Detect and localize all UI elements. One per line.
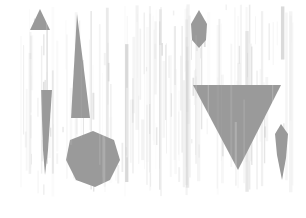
streak-overlay bbox=[24, 32, 26, 65]
streak-grain bbox=[255, 16, 256, 44]
streak-overlay bbox=[230, 44, 232, 167]
streak-overlay bbox=[46, 19, 47, 72]
streak-line bbox=[65, 20, 66, 69]
streak-grain bbox=[125, 147, 127, 155]
streak-overlay bbox=[131, 38, 132, 196]
streak-grain bbox=[132, 99, 134, 122]
streak-line bbox=[181, 56, 182, 111]
streak-overlay bbox=[145, 87, 146, 148]
streak-overlay bbox=[154, 21, 156, 94]
streak-grain bbox=[171, 93, 172, 116]
streak-line bbox=[161, 7, 162, 196]
streak-grain bbox=[200, 48, 201, 58]
streak-overlay bbox=[41, 46, 42, 174]
streak-grain bbox=[161, 43, 163, 56]
streak-overlay bbox=[30, 115, 32, 138]
streak-grain bbox=[146, 67, 147, 71]
streak-overlay bbox=[243, 100, 245, 184]
streak-overlay bbox=[70, 88, 73, 145]
streak-overlay bbox=[208, 80, 209, 169]
streak-grain bbox=[225, 4, 226, 10]
streak-line bbox=[269, 23, 270, 60]
streak-line bbox=[175, 26, 176, 85]
streak-line bbox=[124, 6, 126, 196]
streak-grain bbox=[239, 46, 240, 64]
streak-overlay bbox=[56, 41, 58, 152]
streak-grain bbox=[104, 53, 106, 65]
streak-grain bbox=[198, 145, 200, 158]
streak-grain bbox=[156, 127, 158, 145]
streak-overlay bbox=[164, 10, 166, 148]
streak-grain bbox=[31, 154, 32, 165]
streak-grain bbox=[247, 53, 248, 77]
streak-overlay bbox=[30, 36, 31, 112]
streak-overlay bbox=[291, 42, 292, 137]
streak-overlay bbox=[221, 23, 222, 160]
streak-line bbox=[281, 6, 284, 59]
streak-grain bbox=[117, 165, 119, 184]
streak-overlay bbox=[103, 69, 105, 195]
streak-overlay bbox=[195, 35, 197, 164]
streak-line bbox=[146, 27, 149, 162]
streak-overlay bbox=[152, 70, 153, 130]
streak-grain bbox=[173, 11, 175, 16]
streak-grain bbox=[168, 56, 170, 78]
streak-line bbox=[126, 88, 129, 158]
streak-grain bbox=[62, 127, 63, 132]
streak-overlay bbox=[159, 33, 160, 169]
streak-overlay bbox=[185, 37, 187, 195]
streak-overlay bbox=[66, 34, 67, 178]
streak-grain bbox=[38, 98, 39, 117]
streak-grain bbox=[25, 132, 27, 148]
streak-grain bbox=[178, 167, 180, 182]
streak-grain bbox=[43, 184, 44, 194]
streak-grain bbox=[38, 171, 39, 194]
streak-overlay bbox=[136, 22, 137, 191]
streak-overlay bbox=[81, 61, 82, 138]
streak-overlay bbox=[99, 24, 101, 165]
streak-overlay bbox=[154, 30, 155, 145]
streak-grain bbox=[122, 143, 124, 172]
streak-grain bbox=[150, 173, 151, 187]
streak-grain bbox=[191, 40, 192, 60]
streak-grain bbox=[264, 126, 266, 137]
streak-overlay bbox=[189, 12, 191, 99]
streak-line bbox=[20, 36, 22, 187]
streak-overlay bbox=[235, 122, 237, 180]
streak-line bbox=[139, 29, 141, 100]
streak-overlay bbox=[107, 43, 109, 105]
streak-line bbox=[183, 80, 185, 187]
streak-overlay bbox=[272, 25, 273, 139]
streak-grain bbox=[43, 34, 45, 55]
streak-grain bbox=[207, 119, 208, 135]
artwork-svg bbox=[0, 0, 306, 218]
streak-overlay bbox=[217, 78, 219, 195]
streak-line bbox=[178, 112, 179, 155]
streak-line bbox=[26, 89, 28, 171]
streak-grain bbox=[92, 93, 94, 120]
streak-line bbox=[141, 119, 144, 160]
streak-line bbox=[182, 26, 183, 153]
streak-grain bbox=[56, 153, 58, 164]
streak-grain bbox=[191, 139, 192, 143]
streak-line bbox=[52, 70, 54, 173]
streak-grain bbox=[277, 22, 278, 46]
artwork-canvas bbox=[0, 0, 306, 218]
streak-grain bbox=[50, 128, 51, 137]
streak-overlay bbox=[149, 6, 151, 172]
